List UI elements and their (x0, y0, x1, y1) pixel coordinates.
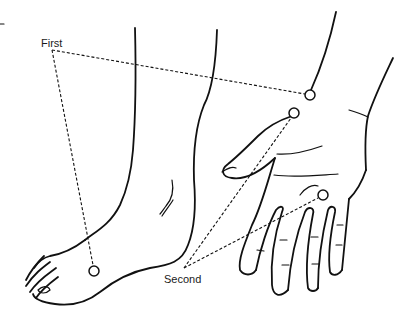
leader-first-to-wrist (52, 50, 305, 94)
point-first-foot (89, 266, 99, 276)
forearm-upper-outline (311, 12, 336, 90)
label-second: Second (164, 274, 201, 285)
forearm-lower-outline (365, 58, 393, 170)
foot-top-outline (34, 240, 85, 268)
toe-3 (30, 268, 56, 292)
palm-crease-3 (300, 185, 318, 195)
finger-little (342, 199, 349, 270)
thumb-outline (223, 116, 292, 178)
knuckle-line (257, 250, 264, 251)
heel-detail (162, 200, 173, 216)
leg-front-outline (33, 30, 217, 305)
palm-crease-2 (274, 174, 338, 176)
palm-left-outline (240, 158, 275, 275)
finger-ring (318, 207, 342, 288)
leader-second-to-wrist (184, 118, 291, 268)
leg-back-outline (85, 28, 136, 240)
leader-first-to-foot (52, 50, 93, 265)
illustration-canvas: First Second (0, 0, 410, 320)
point-second-wrist (289, 108, 299, 118)
point-second-palm (318, 190, 328, 200)
wrist-crease (349, 110, 368, 117)
hand-drawing (222, 12, 393, 295)
palm-right-outline (349, 170, 366, 199)
leg-foot-drawing (26, 28, 217, 305)
palm-crease-1 (277, 146, 322, 154)
label-first: First (41, 38, 62, 49)
finger-middle (288, 208, 318, 291)
point-first-wrist (305, 90, 315, 100)
